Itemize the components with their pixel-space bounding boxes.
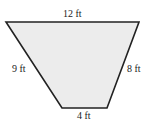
bottom-side-label: 4 ft (77, 111, 91, 121)
left-side-label: 9 ft (12, 64, 26, 74)
trapezoid-diagram: 12 ft 9 ft 8 ft 4 ft (0, 0, 147, 121)
right-side-label: 8 ft (127, 64, 141, 74)
top-side-label: 12 ft (63, 9, 82, 19)
